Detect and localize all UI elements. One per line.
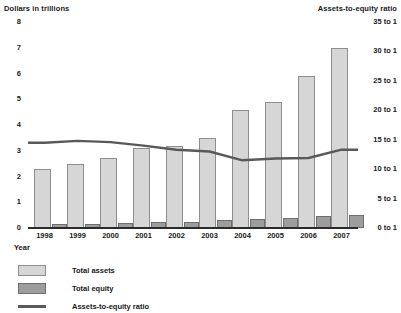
x-axis-title: Year xyxy=(14,243,30,252)
bar-group-2000 xyxy=(94,22,127,228)
bar-total-assets-2000 xyxy=(100,158,117,228)
left-tick-7: 7 xyxy=(11,44,21,52)
bar-group-2007 xyxy=(325,22,358,228)
legend-item-equity[interactable]: Total equity xyxy=(18,280,278,296)
bar-total-assets-2005 xyxy=(265,102,282,228)
right-tick-5: 5 to 1 xyxy=(355,195,397,203)
x-tick-2001: 2001 xyxy=(135,231,152,240)
right-tick-30: 30 to 1 xyxy=(355,47,397,55)
x-tick-2002: 2002 xyxy=(168,231,185,240)
bar-total-assets-2007 xyxy=(331,48,348,228)
x-tick-2006: 2006 xyxy=(300,231,317,240)
left-tick-2: 2 xyxy=(11,173,21,181)
x-tick-1998: 1998 xyxy=(36,231,53,240)
bar-group-1999 xyxy=(61,22,94,228)
right-tick-20: 20 to 1 xyxy=(355,106,397,114)
x-tick-1999: 1999 xyxy=(69,231,86,240)
bar-group-1998 xyxy=(28,22,61,228)
bar-total-assets-2004 xyxy=(232,110,249,228)
right-tick-25: 25 to 1 xyxy=(355,77,397,85)
bar-group-2002 xyxy=(160,22,193,228)
x-tick-2004: 2004 xyxy=(234,231,251,240)
bar-total-assets-1998 xyxy=(34,169,51,228)
legend-item-assets[interactable]: Total assets xyxy=(18,262,278,278)
bar-group-2001 xyxy=(127,22,160,228)
bar-total-assets-2002 xyxy=(166,146,183,228)
bar-group-2006 xyxy=(292,22,325,228)
right-tick-15: 15 to 1 xyxy=(355,136,397,144)
chart-legend: Total assetsTotal equityAssets-to-equity… xyxy=(18,262,278,313)
bar-total-assets-1999 xyxy=(67,164,84,228)
x-tick-2005: 2005 xyxy=(267,231,284,240)
x-tick-2007: 2007 xyxy=(333,231,350,240)
x-axis-baseline xyxy=(28,227,358,229)
left-tick-4: 4 xyxy=(11,121,21,129)
legend-item-line[interactable]: Assets-to-equity ratio xyxy=(18,298,278,313)
right-tick-35: 35 to 1 xyxy=(355,18,397,26)
legend-assets-swatch xyxy=(18,265,46,276)
chart-container: Dollars in trillions Assets-to-equity ra… xyxy=(0,0,401,313)
bar-group-2003 xyxy=(193,22,226,228)
bar-group-2005 xyxy=(259,22,292,228)
legend-label: Total assets xyxy=(72,266,115,275)
left-axis-title: Dollars in trillions xyxy=(4,4,69,13)
left-tick-6: 6 xyxy=(11,70,21,78)
right-tick-10: 10 to 1 xyxy=(355,165,397,173)
left-tick-5: 5 xyxy=(11,95,21,103)
legend-label: Total equity xyxy=(72,284,114,293)
bar-total-assets-2006 xyxy=(298,76,315,228)
legend-line-swatch xyxy=(18,301,46,312)
left-tick-8: 8 xyxy=(11,18,21,26)
legend-label: Assets-to-equity ratio xyxy=(72,302,149,311)
bar-total-assets-2001 xyxy=(133,148,150,228)
x-tick-2003: 2003 xyxy=(201,231,218,240)
plot-area xyxy=(28,22,358,228)
x-tick-2000: 2000 xyxy=(102,231,119,240)
legend-equity-swatch xyxy=(18,283,46,294)
left-tick-3: 3 xyxy=(11,147,21,155)
bar-total-assets-2003 xyxy=(199,138,216,228)
right-axis-title: Assets-to-equity ratio xyxy=(318,4,397,13)
bar-group-2004 xyxy=(226,22,259,228)
left-tick-0: 0 xyxy=(11,224,21,232)
left-tick-1: 1 xyxy=(11,198,21,206)
